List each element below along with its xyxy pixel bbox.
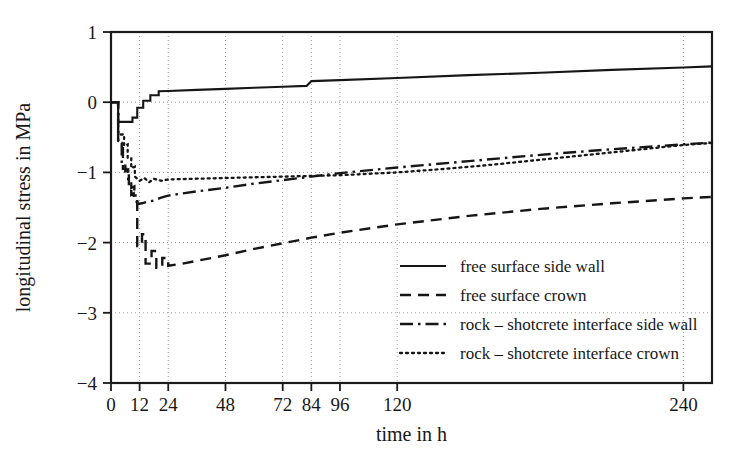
x-tick-label: 0 [106,394,116,415]
y-tick-label: 1 [88,22,98,43]
legend-label: rock – shotcrete interface side wall [460,315,698,334]
chart-figure: 0122448728496120240 −4−3−2−101 time in h… [0,0,744,458]
x-tick-label: 120 [383,394,412,415]
x-tick-label: 24 [159,394,179,415]
x-tick-label: 96 [330,394,349,415]
x-tick-label: 48 [216,394,235,415]
legend-label: free surface side wall [460,257,605,276]
y-tick-label: −1 [77,162,97,183]
x-tick-label: 72 [273,394,292,415]
x-axis-label: time in h [376,423,447,445]
legend-label: free surface crown [460,286,587,305]
y-tick-label: −3 [77,303,97,324]
y-tick-label: 0 [88,92,98,113]
y-tick-label: −2 [77,233,97,254]
x-tick-label: 84 [302,394,322,415]
x-tick-label: 240 [669,394,698,415]
y-axis-label: longitudinal stress in MPa [12,103,35,313]
y-tick-label: −4 [77,373,98,394]
x-tick-label: 12 [130,394,149,415]
legend-label: rock – shotcrete interface crown [460,344,679,363]
line-chart: 0122448728496120240 −4−3−2−101 time in h… [0,0,744,458]
